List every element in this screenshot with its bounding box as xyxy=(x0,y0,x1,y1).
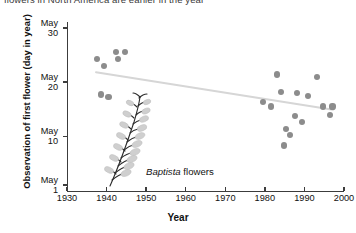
y-tick-label: May10 xyxy=(14,126,58,146)
data-point xyxy=(268,103,274,109)
data-point xyxy=(101,63,107,69)
data-point xyxy=(294,90,300,96)
data-point xyxy=(113,49,119,55)
y-tick-mark xyxy=(63,136,67,137)
y-tick-mark xyxy=(63,27,67,28)
y-axis-line xyxy=(67,22,68,192)
chart-figure: flowers in North America are earlier in … xyxy=(0,0,356,233)
x-tick-mark xyxy=(66,187,67,191)
data-point xyxy=(260,99,266,105)
data-point xyxy=(274,71,280,77)
x-tick-label: 1940 xyxy=(87,193,127,203)
y-tick-mark xyxy=(63,81,67,82)
data-point xyxy=(122,49,128,55)
data-point xyxy=(327,112,333,118)
x-axis-title: Year xyxy=(0,212,356,223)
data-point xyxy=(329,103,335,109)
species-name: Baptista xyxy=(146,166,181,177)
x-tick-mark xyxy=(225,187,226,191)
data-point xyxy=(305,93,311,99)
x-tick-label: 2000 xyxy=(324,193,356,203)
data-point xyxy=(115,56,121,62)
flower-annotation-label: Baptista flowers xyxy=(146,166,214,177)
x-tick-mark xyxy=(185,187,186,191)
x-tick-label: 1970 xyxy=(205,193,245,203)
data-point xyxy=(292,113,298,119)
data-point xyxy=(287,132,293,138)
data-point xyxy=(278,89,284,95)
data-point xyxy=(283,126,289,132)
y-tick-label: May1 xyxy=(14,175,58,195)
data-point xyxy=(94,56,100,62)
data-point xyxy=(320,103,326,109)
x-tick-label: 1950 xyxy=(126,193,166,203)
figure-caption: flowers in North America are earlier in … xyxy=(4,0,304,6)
x-tick-label: 1930 xyxy=(47,193,87,203)
data-point xyxy=(299,119,305,125)
data-point xyxy=(281,142,287,148)
x-tick-mark xyxy=(264,187,265,191)
y-tick-label: May30 xyxy=(14,18,58,38)
x-tick-label: 1980 xyxy=(245,193,285,203)
y-axis-title: Observation of first flower (day in year… xyxy=(21,12,32,192)
species-suffix: flowers xyxy=(181,166,214,177)
data-point xyxy=(314,74,320,80)
x-tick-label: 1990 xyxy=(284,193,324,203)
x-tick-label: 1960 xyxy=(166,193,206,203)
y-tick-label: May20 xyxy=(14,72,58,92)
x-tick-mark xyxy=(343,187,344,191)
x-tick-mark xyxy=(304,187,305,191)
y-tick-mark xyxy=(63,184,67,185)
